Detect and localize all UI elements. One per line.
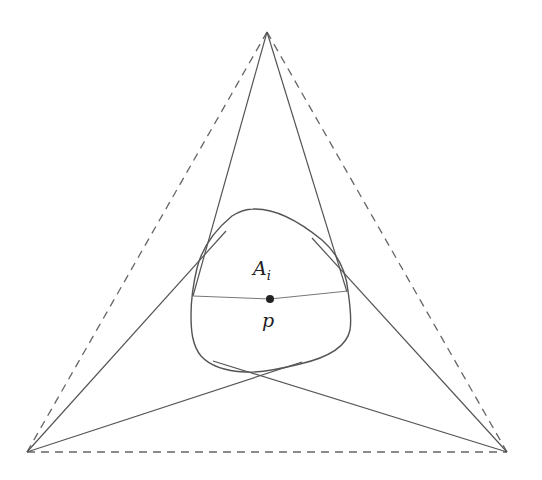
region-a-i [191,209,351,372]
point-p-dot [266,295,274,303]
label-a-i: Ai [251,257,271,283]
outer-edge-left [27,32,267,452]
outer-triangle [27,32,507,452]
diagram-canvas: Ai p [0,0,542,480]
label-p: p [262,309,274,331]
tangent-lines [27,32,507,452]
label-a-subscript: i [267,268,271,283]
tangent-top-right [267,32,347,292]
label-a-main: A [251,257,267,279]
label-p-text: p [262,309,274,331]
